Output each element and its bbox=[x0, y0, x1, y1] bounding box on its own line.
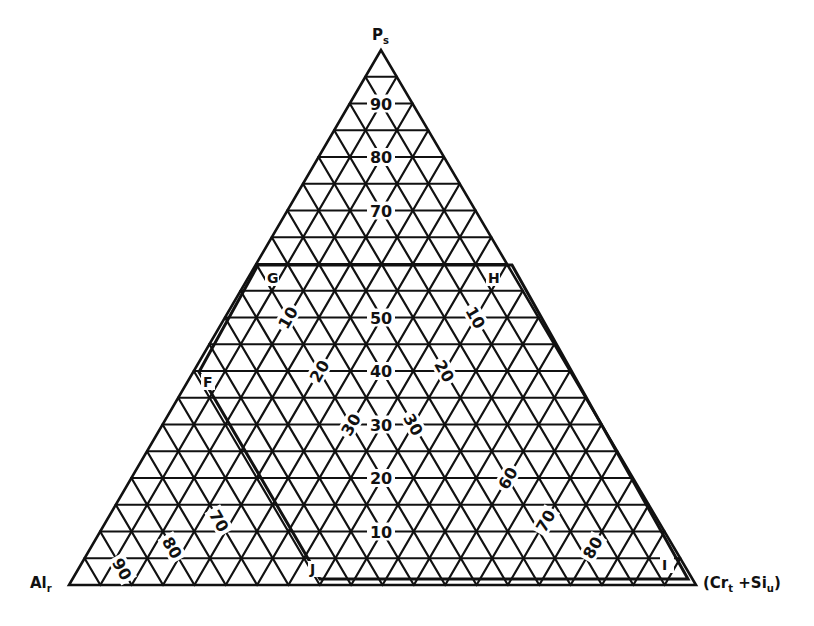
grid-line-al bbox=[209, 344, 351, 585]
svg-text:40: 40 bbox=[370, 362, 392, 381]
ps-axis-label: 30 bbox=[367, 416, 395, 435]
ps-axis-label: 80 bbox=[367, 148, 395, 167]
region-point-label-g: G bbox=[267, 270, 279, 286]
grid-line-al bbox=[178, 398, 288, 585]
grid-line-cr bbox=[226, 184, 460, 585]
region-point-label-h: H bbox=[488, 270, 500, 286]
svg-text:80: 80 bbox=[370, 148, 392, 167]
svg-text:20: 20 bbox=[370, 469, 392, 488]
region-point-label-f: F bbox=[203, 374, 213, 390]
svg-text:70: 70 bbox=[370, 202, 392, 221]
svg-text:90: 90 bbox=[370, 95, 392, 114]
svg-text:30: 30 bbox=[370, 416, 392, 435]
ps-axis-label: 10 bbox=[367, 523, 395, 542]
vertex-label-al: Alr bbox=[30, 574, 52, 594]
ps-axis-label: 50 bbox=[367, 309, 395, 328]
cr-axis-label: 20 bbox=[304, 354, 334, 388]
svg-text:50: 50 bbox=[370, 309, 392, 328]
grid-line-cr bbox=[477, 398, 586, 585]
cr-axis-label: 60 bbox=[493, 461, 523, 495]
ps-axis-label: 40 bbox=[367, 362, 395, 381]
region-point-label-j: J bbox=[309, 561, 315, 577]
al-axis-label: 10 bbox=[460, 301, 490, 335]
ps-axis-label: 70 bbox=[367, 202, 395, 221]
al-axis-label: 20 bbox=[429, 354, 459, 388]
grid-line-cr bbox=[414, 344, 554, 585]
grid-line-al bbox=[365, 77, 664, 585]
grid-line-cr bbox=[100, 77, 396, 585]
region-point-label-i: I bbox=[662, 557, 667, 573]
cr-axis-label: 10 bbox=[273, 301, 303, 335]
svg-text:10: 10 bbox=[370, 523, 392, 542]
cr-axis-label: 30 bbox=[336, 408, 366, 442]
vertex-label-ps: Ps bbox=[372, 26, 389, 46]
ps-axis-label: 90 bbox=[367, 95, 395, 114]
al-axis-label: 30 bbox=[398, 408, 428, 442]
ps-axis-label: 20 bbox=[367, 469, 395, 488]
grid-line-al bbox=[303, 184, 539, 585]
grid-line-al bbox=[85, 558, 101, 585]
vertex-label-cr-si: (Crt +Siu) bbox=[703, 574, 781, 594]
ternary-diagram: 9080705040302010102030708090102030607080… bbox=[0, 0, 814, 626]
